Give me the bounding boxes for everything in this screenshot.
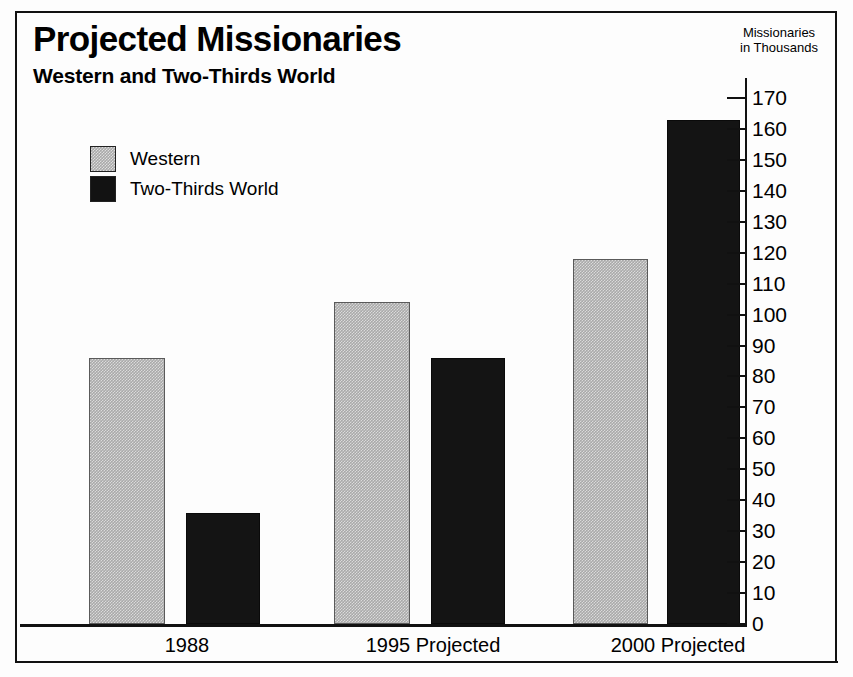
y-tick-label-30: 30 bbox=[752, 520, 775, 541]
y-tick-label-170: 170 bbox=[752, 87, 787, 108]
bar-1995-projected-western bbox=[334, 302, 410, 624]
bars-container bbox=[33, 78, 745, 624]
y-tick-label-50: 50 bbox=[752, 458, 775, 479]
y-tick-label-70: 70 bbox=[752, 396, 775, 417]
y-axis-caption-line-1: Missionaries bbox=[723, 25, 835, 40]
bar-1988-western bbox=[89, 358, 165, 624]
y-tick-90 bbox=[727, 345, 745, 347]
category-label-1988: 1988 bbox=[77, 630, 297, 660]
y-tick-label-80: 80 bbox=[752, 365, 775, 386]
category-labels: 19881995 Projected2000 Projected bbox=[20, 630, 747, 663]
y-tick-label-20: 20 bbox=[752, 551, 775, 572]
bar-1995-projected-two-thirds-world bbox=[431, 358, 505, 624]
y-tick-150 bbox=[727, 159, 745, 161]
bar-1988-two-thirds-world bbox=[186, 513, 260, 624]
category-label-1995-projected: 1995 Projected bbox=[323, 630, 543, 660]
y-tick-110 bbox=[727, 283, 745, 285]
y-tick-80 bbox=[727, 375, 745, 377]
y-tick-140 bbox=[727, 190, 745, 192]
y-tick-30 bbox=[727, 530, 745, 532]
chart-page: Projected Missionaries Western and Two-T… bbox=[0, 0, 853, 677]
y-tick-label-160: 160 bbox=[752, 118, 787, 139]
y-tick-label-40: 40 bbox=[752, 489, 775, 510]
y-tick-label-10: 10 bbox=[752, 582, 775, 603]
bar-2000-projected-western bbox=[573, 259, 648, 624]
y-tick-130 bbox=[727, 221, 745, 223]
y-tick-50 bbox=[727, 468, 745, 470]
y-tick-label-130: 130 bbox=[752, 211, 787, 232]
y-tick-100 bbox=[727, 314, 745, 316]
y-tick-label-140: 140 bbox=[752, 180, 787, 201]
y-tick-0 bbox=[727, 623, 745, 625]
chart-title: Projected Missionaries bbox=[33, 19, 401, 59]
bar-2000-projected-two-thirds-world bbox=[667, 120, 740, 624]
y-axis-line bbox=[745, 78, 747, 625]
y-tick-160 bbox=[727, 128, 745, 130]
y-axis-caption: Missionaries in Thousands bbox=[723, 25, 835, 55]
bottom-rule bbox=[20, 661, 838, 663]
y-tick-label-90: 90 bbox=[752, 335, 775, 356]
y-tick-60 bbox=[727, 437, 745, 439]
x-axis-baseline bbox=[20, 624, 747, 627]
y-tick-20 bbox=[727, 561, 745, 563]
y-tick-label-60: 60 bbox=[752, 427, 775, 448]
y-tick-170 bbox=[727, 97, 745, 99]
y-tick-label-100: 100 bbox=[752, 304, 787, 325]
y-tick-label-150: 150 bbox=[752, 149, 787, 170]
y-tick-label-120: 120 bbox=[752, 242, 787, 263]
category-label-2000-projected: 2000 Projected bbox=[568, 630, 788, 660]
y-axis-caption-line-2: in Thousands bbox=[723, 40, 835, 55]
y-tick-120 bbox=[727, 252, 745, 254]
y-tick-40 bbox=[727, 499, 745, 501]
y-tick-10 bbox=[727, 592, 745, 594]
y-tick-70 bbox=[727, 406, 745, 408]
y-tick-label-110: 110 bbox=[752, 273, 785, 294]
plot-area bbox=[33, 78, 745, 624]
